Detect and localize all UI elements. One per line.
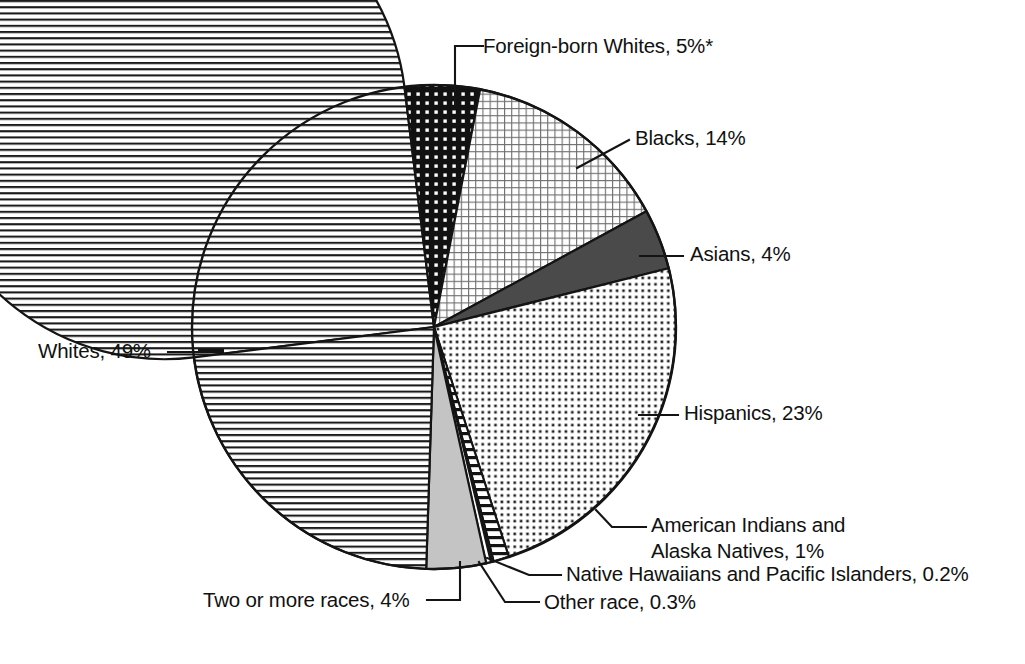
label-other-race: Other race, 0.3% <box>544 589 696 615</box>
label-american-indians-alaska-natives: American Indians and Alaska Natives, 1% <box>651 512 845 564</box>
pie-chart-figure: Foreign-born Whites, 5%* Blacks, 14% Asi… <box>0 0 1025 664</box>
label-two-or-more-races: Two or more races, 4% <box>203 587 410 613</box>
pie-slice-whites[interactable] <box>0 0 434 359</box>
pie-slices <box>0 0 676 569</box>
label-foreign-born-whites: Foreign-born Whites, 5%* <box>483 33 713 59</box>
label-whites: Whites, 49% <box>38 338 151 364</box>
pie-slice-whites-tail <box>194 327 434 569</box>
label-asians: Asians, 4% <box>690 241 791 267</box>
label-native-hawaiians-pacific-islanders: Native Hawaiians and Pacific Islanders, … <box>566 561 969 587</box>
leader-line-american-indians <box>596 510 646 527</box>
label-blacks: Blacks, 14% <box>635 125 746 151</box>
label-american-indians-line1: American Indians and <box>651 512 845 538</box>
label-hispanics: Hispanics, 23% <box>684 400 823 426</box>
